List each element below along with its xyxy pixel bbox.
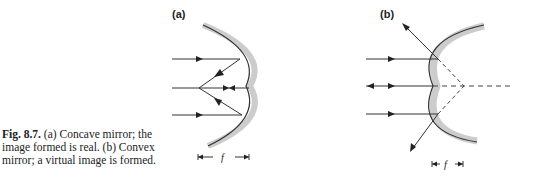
focal-length-a: f xyxy=(198,152,249,163)
mirror-diagram: (a) f (b) xyxy=(0,0,538,180)
panel-b-convex: (b) f xyxy=(366,8,513,170)
concave-mirror-backing xyxy=(203,25,255,146)
panel-a-concave: (a) f xyxy=(172,8,255,163)
panel-a-label: (a) xyxy=(172,8,186,20)
f-label-b: f xyxy=(444,159,448,170)
focal-length-b: f xyxy=(432,159,463,170)
f-label-a: f xyxy=(221,152,225,163)
panel-b-label: (b) xyxy=(380,8,394,20)
